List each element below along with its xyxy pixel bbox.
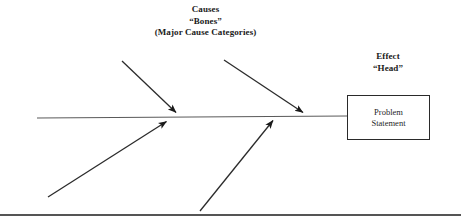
causes-label-line-3: (Major Cause Categories)	[0, 27, 411, 39]
lower-bone-1	[48, 122, 167, 198]
causes-label-line-2: “Bones”	[0, 16, 411, 28]
causes-label: Causes “Bones” (Major Cause Categories)	[0, 4, 411, 39]
lower-bone-2	[200, 121, 273, 212]
effect-label-line-2: “Head”	[330, 63, 446, 75]
problem-statement-box: Problem Statement	[347, 95, 430, 140]
problem-statement-line-1: Problem	[374, 107, 403, 118]
spine-line	[37, 116, 347, 118]
effect-label: Effect “Head”	[330, 51, 446, 74]
problem-statement-line-2: Statement	[372, 118, 406, 129]
upper-bone-1	[122, 61, 176, 113]
causes-label-line-1: Causes	[0, 4, 411, 16]
effect-label-line-1: Effect	[330, 51, 446, 63]
upper-bone-2	[224, 60, 303, 113]
